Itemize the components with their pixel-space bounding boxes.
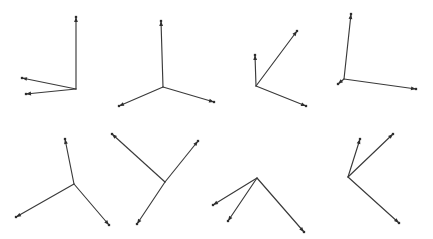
arrow-figure-3-arm-up-right-tip-dot-icon: [296, 30, 298, 32]
arrow-figure-1: [21, 16, 78, 96]
arrow-figure-5-arm-down-right: [74, 184, 109, 225]
arrow-figure-6: [111, 133, 199, 225]
arrow-figure-3-arm-up-right: [256, 31, 297, 86]
arrow-figure-7-arm-down-left-lower: [228, 178, 257, 221]
arrow-figure-1-arm-up-tip-dot-icon: [75, 16, 77, 18]
arrow-figure-3-arm-down-right-tip-dot-icon: [305, 105, 307, 107]
arrow-figure-5: [15, 138, 110, 226]
arrow-figure-7-arm-down-right-tip-dot-icon: [303, 231, 305, 233]
arrow-figure-5-arm-down-left: [16, 184, 74, 217]
arrow-figure-7-arm-down-left-upper: [213, 178, 257, 205]
arrow-figure-6-arm-up-right-tip-dot-icon: [197, 140, 199, 142]
arrow-figure-2-arm-down-left-tip-dot-icon: [118, 105, 120, 107]
arrow-figure-4-arm-right-tip-dot-icon: [415, 88, 417, 90]
arrow-figure-6-arm-down-left: [137, 182, 165, 224]
arrow-figure-6-arm-up-left: [112, 134, 165, 182]
arrow-figure-4-arm-up-tip-dot-icon: [350, 13, 352, 15]
arrow-figure-1-arm-left-upper-tip-dot-icon: [21, 77, 23, 79]
arrow-figure-7-arm-down-right: [257, 178, 304, 232]
arrow-figure-4-arm-right: [344, 79, 416, 89]
arrow-figure-4-arm-down-left-short-tip-dot-icon: [337, 83, 339, 85]
arrow-figure-8-arm-down-right-tip-dot-icon: [398, 222, 400, 224]
arrow-figure-3-arm-up-tip-dot-icon: [254, 54, 256, 56]
arrow-figure-8-arm-down-right: [348, 177, 399, 223]
arrow-figure-7-arm-down-left-lower-tip-dot-icon: [227, 220, 229, 222]
arrow-figure-5-arm-down-left-tip-dot-icon: [15, 216, 17, 218]
arrow-figure-2-arm-down-right-tip-dot-icon: [213, 101, 215, 103]
figure-canvas: [0, 0, 433, 239]
arrow-figure-3: [253, 30, 307, 107]
arrow-figure-2-arm-down-right: [163, 87, 214, 102]
arrow-figure-7: [212, 178, 305, 233]
arrow-figure-6-arm-up-left-tip-dot-icon: [111, 133, 113, 135]
arrow-figure-2-arm-up: [161, 21, 163, 87]
arrow-figure-8: [348, 133, 400, 224]
arrow-figure-5-arm-up: [65, 139, 74, 184]
arrow-figure-1-arm-left-upper: [22, 78, 76, 89]
arrow-figure-4: [337, 13, 417, 90]
arrow-figure-1-arm-left-lower-tip-dot-icon: [25, 93, 27, 95]
arrow-figure-7-arm-down-left-upper-tip-dot-icon: [212, 204, 214, 206]
arrow-figure-6-arm-up-right: [165, 141, 198, 182]
arrow-figure-2-arm-down-left: [119, 87, 163, 106]
arrow-figure-8-arm-up-right-tip-dot-icon: [392, 133, 394, 135]
arrow-figures-svg: [0, 0, 433, 239]
arrow-figure-3-arm-down-right: [256, 86, 306, 106]
arrow-figure-5-arm-up-tip-dot-icon: [64, 138, 66, 140]
arrow-figure-8-arm-up-tip-dot-icon: [359, 138, 361, 140]
arrow-figure-5-arm-down-right-tip-dot-icon: [108, 224, 110, 226]
arrow-figure-4-arm-up: [344, 14, 351, 79]
arrow-figure-1-arm-left-lower: [26, 89, 76, 94]
arrow-figure-2-arm-up-tip-dot-icon: [160, 20, 162, 22]
arrow-figure-2: [118, 20, 215, 107]
arrow-figure-6-arm-down-left-tip-dot-icon: [136, 223, 138, 225]
